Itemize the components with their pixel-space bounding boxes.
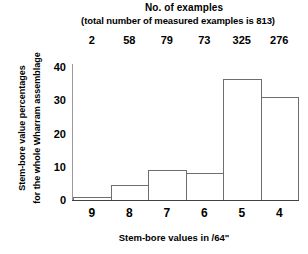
- y-tick-label: 0: [36, 195, 66, 206]
- count-value: 2: [73, 33, 111, 47]
- y-tick-label: 20: [36, 129, 66, 140]
- x-tick-label: 8: [111, 205, 149, 221]
- x-tick-label: 5: [223, 205, 261, 221]
- count-value: 79: [148, 33, 186, 47]
- x-tick-label: 4: [261, 205, 299, 221]
- bar: [148, 170, 187, 200]
- x-tick-label: 7: [148, 205, 186, 221]
- counts-row: 2 58 79 73 325 276: [73, 33, 298, 47]
- x-axis-label: Stem-bore values in /64": [40, 232, 308, 243]
- y-tick-label: 30: [36, 95, 66, 106]
- count-value: 325: [223, 33, 261, 47]
- y-axis-label: Stem-bore value percentages for the whol…: [0, 52, 34, 204]
- x-tick-label: 9: [73, 205, 111, 221]
- chart-figure: No. of examples (total number of measure…: [0, 0, 308, 254]
- plot-area: [73, 67, 298, 200]
- bar: [261, 97, 300, 200]
- y-tick-label: 10: [36, 162, 66, 173]
- count-value: 73: [186, 33, 224, 47]
- x-axis-line: [72, 200, 299, 201]
- bar: [223, 79, 262, 200]
- bar: [73, 197, 112, 200]
- y-tick-label: 40: [36, 62, 66, 73]
- chart-top-title: No. of examples: [60, 2, 308, 13]
- count-value: 58: [111, 33, 149, 47]
- bar: [111, 185, 150, 200]
- chart-top-subtitle: (total number of measured examples is 81…: [48, 15, 308, 26]
- x-tick-label: 6: [186, 205, 224, 221]
- x-tick-labels: 9 8 7 6 5 4: [73, 205, 298, 221]
- bar: [186, 173, 225, 200]
- bar-series: [73, 67, 298, 200]
- count-value: 276: [261, 33, 299, 47]
